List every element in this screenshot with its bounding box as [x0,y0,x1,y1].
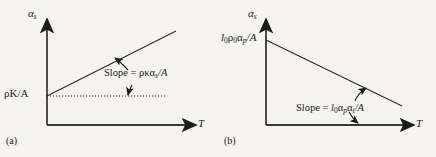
panel-b-data-line [266,40,402,106]
panel-a-caption: (a) [6,136,17,146]
panel-a: αs ρK/A Slope = ρκαs/A T (a) [0,0,218,157]
panel-b: αs l0ρ0αp/A Slope = l0αpαt/A T (b) [218,0,436,157]
panel-b-slope-label: Slope = l0αpαt/A [296,103,364,115]
panel-a-y-axis-label: αs [28,8,37,21]
panel-a-slope-label: Slope = ρκαs/A [104,68,167,80]
panel-a-x-axis-label: T [198,118,204,129]
figure-two-panel-plots: αs ρK/A Slope = ρκαs/A T (a) [0,0,436,157]
panel-b-x-axis-label: T [416,118,422,129]
panel-a-data-line [47,31,176,96]
panel-b-plot [218,0,436,157]
panel-b-arrow-to-line [355,88,366,101]
panel-b-y-axis-label: αs [248,8,257,21]
panel-a-intercept-label: ρK/A [4,88,28,99]
panel-a-arrow-to-guide [128,85,132,95]
panel-b-intercept-label: l0ρ0αp/A [221,32,256,45]
panel-b-caption: (b) [224,136,236,146]
